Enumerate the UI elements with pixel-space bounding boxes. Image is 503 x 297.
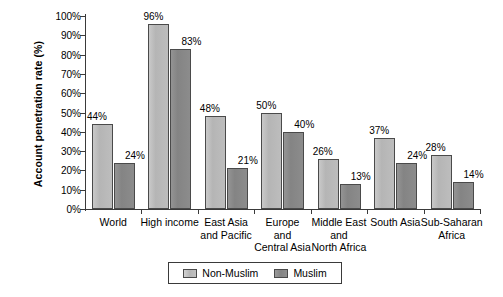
legend-item-non-muslim: Non-Muslim	[183, 267, 258, 279]
bar-group: 37%24%	[367, 16, 423, 209]
bar-muslim	[283, 132, 304, 209]
bar-value-label: 50%	[246, 100, 286, 111]
legend-item-muslim: Muslim	[274, 267, 326, 279]
x-axis-tick-mark	[311, 209, 312, 214]
bar-non-muslim	[374, 138, 395, 209]
x-axis-tick-mark	[254, 209, 255, 214]
bar-value-label: 37%	[359, 125, 399, 136]
bar-value-label: 26%	[303, 146, 343, 157]
legend-swatch-muslim-icon	[274, 269, 288, 278]
legend-label-muslim: Muslim	[293, 267, 326, 279]
bar-non-muslim	[318, 159, 339, 209]
bar-muslim	[170, 49, 191, 209]
y-axis-tick-label: 70%	[0, 68, 81, 79]
y-axis-tick-label: 50%	[0, 107, 81, 118]
y-axis-tick-label: 80%	[0, 49, 81, 60]
bar-muslim	[114, 163, 135, 209]
y-axis-tick-label: 0%	[0, 204, 81, 215]
bar-non-muslim	[205, 116, 226, 209]
legend-label-non-muslim: Non-Muslim	[202, 267, 258, 279]
bar-group: 26%13%	[311, 16, 367, 209]
y-axis-tick-label: 40%	[0, 126, 81, 137]
x-axis-tick-mark	[367, 209, 368, 214]
bar-value-label: 96%	[133, 11, 173, 22]
bar-value-label: 28%	[416, 142, 456, 153]
bar-group: 48%21%	[198, 16, 254, 209]
chart-legend: Non-Muslim Muslim	[168, 262, 342, 284]
y-axis-tick-label: 100%	[0, 11, 81, 22]
x-axis-line	[85, 209, 481, 210]
bar-non-muslim	[148, 24, 169, 209]
y-axis-tick-label: 10%	[0, 184, 81, 195]
bar-muslim	[340, 184, 361, 209]
x-axis-tick-mark	[198, 209, 199, 214]
bar-value-label: 48%	[190, 103, 230, 114]
bar-chart: Account penetration rate (%) 100%90%80%7…	[0, 0, 503, 297]
bar-group: 44%24%	[85, 16, 141, 209]
bar-non-muslim	[431, 155, 452, 209]
y-axis-tick-label: 90%	[0, 30, 81, 41]
x-axis-tick-mark	[141, 209, 142, 214]
bar-value-label: 44%	[77, 111, 117, 122]
x-axis-category-label: Sub-SaharanAfrica	[418, 216, 486, 241]
bar-group: 50%40%	[254, 16, 310, 209]
bar-muslim	[396, 163, 417, 209]
bar-muslim	[227, 168, 248, 209]
bar-non-muslim	[261, 113, 282, 210]
bar-non-muslim	[92, 124, 113, 209]
bar-value-label: 14%	[454, 169, 494, 180]
bar-muslim	[453, 182, 474, 209]
x-axis-tick-mark	[424, 209, 425, 214]
y-axis-tick-label: 30%	[0, 146, 81, 157]
legend-swatch-non-muslim-icon	[183, 269, 197, 278]
x-axis-tick-mark	[480, 209, 481, 214]
y-axis-tick-mark	[80, 209, 85, 210]
y-axis-tick-label: 20%	[0, 165, 81, 176]
y-axis-tick-label: 60%	[0, 88, 81, 99]
bar-group: 28%14%	[424, 16, 480, 209]
